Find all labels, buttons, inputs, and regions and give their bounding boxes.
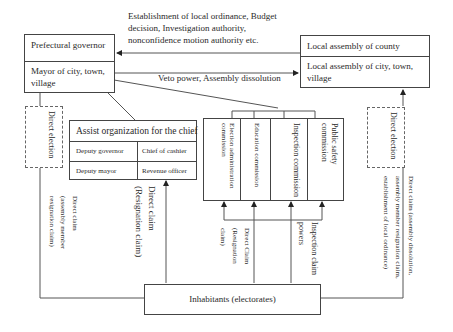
commission-claim-line2: (Resignation	[231, 228, 239, 264]
annotation-line-2: decision, Investigation authority,	[128, 23, 246, 34]
education-label: Education commission	[253, 123, 261, 187]
inspection-claim-line2: powers	[296, 222, 306, 245]
city-assembly-line1: Local assembly of city, town,	[307, 61, 413, 72]
executive-box: Prefectural governor Mayor of city, town…	[24, 34, 115, 93]
inspection-claim-line1: Inspection claim	[309, 222, 319, 275]
revenue-officer: Revenue officer	[142, 167, 187, 176]
prefectural-governor-label: Prefectural governor	[31, 40, 105, 51]
city-assembly-line2: village	[307, 73, 332, 84]
commissions-box: Election administration commission Educa…	[203, 118, 344, 201]
inspection-commission: Inspection commission	[271, 119, 308, 200]
left-claim-line3: resignation claim)	[48, 196, 56, 247]
annotation-line-3: nonconfidence motion authority etc.	[128, 35, 258, 46]
right-direct-election-label: Direct election	[378, 112, 398, 166]
left-claim-line1: Direct claim	[71, 196, 79, 231]
assist-org-title: Assist organization for the chief	[76, 126, 198, 137]
left-direct-election-box: Direct election	[25, 106, 63, 168]
commission-claim-line1: Direct Claim	[243, 228, 251, 264]
inspection-label: Inspection commission	[279, 123, 301, 197]
inhabitants-label: Inhabitants (electorates)	[145, 294, 320, 305]
inhabitants-box: Inhabitants (electorates)	[144, 284, 321, 315]
deputy-governor: Deputy governor	[76, 147, 124, 156]
left-direct-election-label: Direct election	[36, 111, 56, 165]
right-claim-line2: assembly member resignation claim,	[394, 176, 402, 279]
chief-of-cashier: Chief of cashier	[142, 147, 187, 156]
public-safety-label: Public safety commission	[317, 123, 339, 173]
election-admin-label: Election administration commission	[220, 123, 236, 197]
veto-label: Veto power, Assembly dissolution	[158, 73, 281, 84]
mayor-label-line1: Mayor of city, town,	[31, 66, 105, 77]
annotation-line-1: Establishment of local ordinance, Budget	[128, 11, 277, 22]
chief-claim-line2: (Resignation claim)	[134, 186, 144, 257]
mayor-label-line2: village	[31, 78, 56, 89]
education-commission: Education commission	[241, 119, 271, 200]
assist-divider-1	[70, 141, 196, 142]
public-safety-commission: Public safety commission	[308, 119, 345, 200]
assembly-box: Local assembly of county Local assembly …	[300, 35, 430, 88]
right-claim-line3: establishment of local ordinance)	[382, 176, 390, 269]
right-claim-line1: Direct claim (assembly dissolution,	[407, 176, 415, 275]
chief-claim-line1: Direct claim	[147, 186, 157, 231]
assist-organization-box: Assist organization for the chief Deputy…	[69, 120, 197, 180]
commission-claim-line3: claim)	[219, 228, 227, 246]
right-direct-election-box: Direct election	[367, 107, 405, 168]
left-claim-line2: (assembly member	[59, 196, 67, 249]
assist-divider-2	[70, 161, 196, 162]
election-admin-commission: Election administration commission	[204, 119, 241, 200]
assembly-divider	[301, 56, 429, 57]
county-assembly-label: Local assembly of county	[307, 41, 400, 52]
executive-divider	[25, 61, 114, 62]
deputy-mayor: Deputy mayor	[76, 167, 116, 176]
assist-col-divider	[137, 141, 138, 179]
